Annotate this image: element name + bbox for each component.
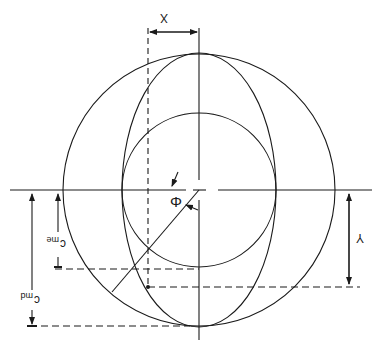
svg-text:c: c xyxy=(34,293,40,307)
angle-arrow-upper xyxy=(172,172,178,186)
diagram-canvas: X Y Φ c me c md xyxy=(0,0,384,343)
angle-arrow-lower xyxy=(186,205,198,210)
c-md-label: c md xyxy=(20,291,40,307)
y-dimension-label: Y xyxy=(356,231,364,245)
projection-point xyxy=(146,285,150,289)
c-me-label: c me xyxy=(46,235,66,251)
svg-text:md: md xyxy=(20,291,33,301)
ellipse-construction-diagram: X Y Φ c me c md xyxy=(0,0,384,343)
angle-phi-label: Φ xyxy=(170,193,182,210)
svg-text:me: me xyxy=(46,235,59,245)
x-dimension-label: X xyxy=(160,11,168,25)
svg-text:c: c xyxy=(60,237,66,251)
